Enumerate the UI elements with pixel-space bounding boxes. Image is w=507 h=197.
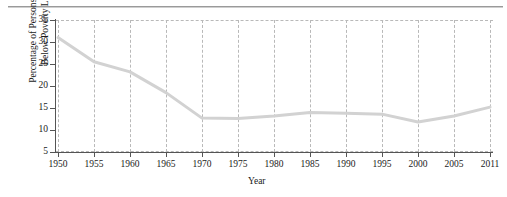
y-tick-mark-15 (50, 108, 55, 109)
y-tick-label-10: 10 (39, 125, 49, 135)
x-tick-mark-1995 (382, 152, 383, 157)
x-tick-label-2000: 2000 (409, 160, 428, 170)
x-tick-mark-1975 (238, 152, 239, 157)
x-tick-mark-1960 (130, 152, 131, 157)
x-tick-mark-1985 (310, 152, 311, 157)
y-tick-mark-35 (50, 20, 55, 21)
x-tick-label-1960: 1960 (121, 160, 140, 170)
y-tick-label-15: 15 (39, 103, 49, 113)
x-tick-label-1985: 1985 (301, 160, 320, 170)
x-tick-label-2005: 2005 (445, 160, 464, 170)
x-tick-mark-1955 (94, 152, 95, 157)
y-tick-mark-10 (50, 130, 55, 131)
x-tick-label-1955: 1955 (85, 160, 104, 170)
x-tick-label-1975: 1975 (229, 160, 248, 170)
x-tick-label-1980: 1980 (265, 160, 284, 170)
x-tick-label-1990: 1990 (337, 160, 356, 170)
y-axis-title-line1: Percentage of Persons Living (27, 0, 39, 83)
x-axis-title: Year (248, 176, 266, 186)
x-tick-label-1995: 1995 (373, 160, 392, 170)
y-tick-label-30: 30 (39, 37, 49, 47)
x-tick-mark-1950 (58, 152, 59, 157)
x-tick-mark-1980 (274, 152, 275, 157)
y-tick-mark-25 (50, 64, 55, 65)
y-tick-mark-20 (50, 86, 55, 87)
y-tick-mark-30 (50, 42, 55, 43)
y-tick-label-5: 5 (43, 147, 48, 157)
x-tick-mark-1965 (166, 152, 167, 157)
y-tick-label-35: 35 (39, 15, 49, 25)
x-tick-mark-2011 (490, 152, 491, 157)
x-tick-mark-2000 (418, 152, 419, 157)
x-tick-label-1965: 1965 (157, 160, 176, 170)
x-tick-mark-1990 (346, 152, 347, 157)
plot-area (56, 20, 493, 152)
figure-container: Percentage of Persons Living Below Pover… (0, 0, 507, 197)
y-tick-label-20: 20 (39, 81, 49, 91)
y-tick-label-25: 25 (39, 59, 49, 69)
x-tick-label-2011: 2011 (481, 160, 500, 170)
series-poverty-line (56, 20, 493, 152)
x-tick-mark-1970 (202, 152, 203, 157)
y-axis-title-line2: Below Poverty Line (39, 0, 51, 65)
figure-top-rule (8, 6, 503, 7)
x-tick-label-1970: 1970 (193, 160, 212, 170)
y-tick-mark-5 (50, 152, 55, 153)
x-tick-mark-2005 (454, 152, 455, 157)
x-tick-label-1950: 1950 (49, 160, 68, 170)
